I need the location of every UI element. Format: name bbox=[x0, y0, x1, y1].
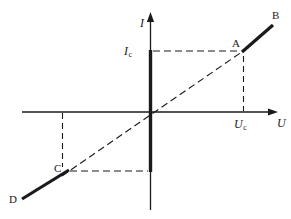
current-axis-label: I bbox=[140, 17, 144, 29]
curve-upper-branch-ab bbox=[242, 25, 273, 52]
curve-lower-branch-cd bbox=[22, 170, 69, 199]
voltage-axis-label: U bbox=[277, 117, 286, 129]
point-b-label: B bbox=[272, 10, 279, 21]
voltage-threshold-subscript: c bbox=[243, 123, 247, 132]
current-axis-arrowhead bbox=[147, 12, 154, 22]
current-threshold-subscript: c bbox=[129, 50, 133, 59]
point-a-label: A bbox=[232, 38, 240, 49]
current-threshold-label: Ic bbox=[124, 45, 132, 57]
point-d-label: D bbox=[9, 194, 17, 205]
voltage-threshold-label: Uc bbox=[234, 118, 246, 130]
voltage-axis-arrowhead bbox=[268, 108, 278, 115]
diagram-canvas bbox=[0, 0, 291, 219]
point-c-label: C bbox=[54, 163, 61, 174]
voltage-threshold-symbol: U bbox=[234, 117, 243, 131]
iv-characteristic-figure: I U Ic Uc A B C D bbox=[0, 0, 291, 219]
current-threshold-symbol: I bbox=[124, 44, 128, 58]
